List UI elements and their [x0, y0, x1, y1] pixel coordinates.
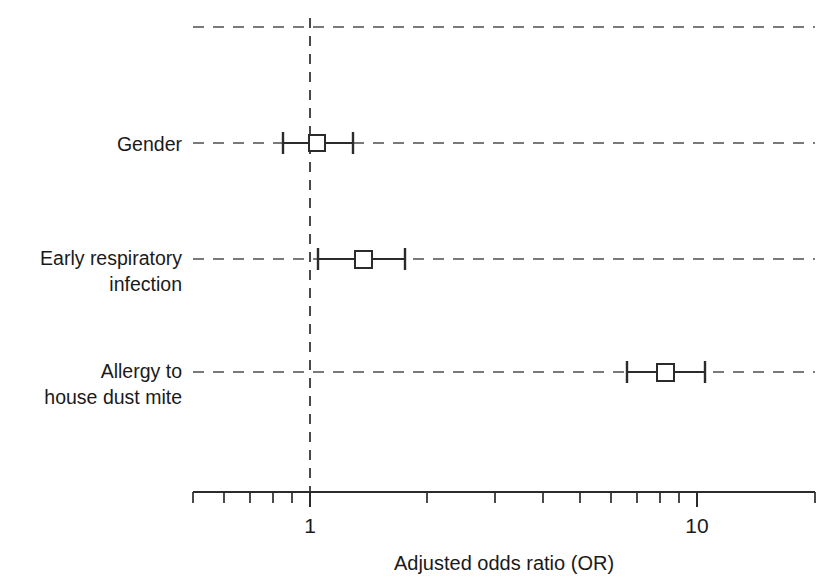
estimate-marker-early-respiratory-infection: [355, 251, 372, 268]
forest-row-allergy-house-dust-mite: Allergy to house dust mite: [44, 360, 705, 408]
estimate-marker-allergy-house-dust-mite: [657, 364, 674, 381]
forest-plot-canvas: Gender Early respiratory infection Aller…: [0, 0, 836, 580]
forest-row-early-respiratory-infection: Early respiratory infection: [40, 247, 405, 295]
x-axis-ticklabel-10: 10: [685, 514, 708, 537]
row-label-allergy-house-dust-mite-line1: Allergy to: [101, 360, 182, 382]
row-gridlines: [193, 143, 815, 372]
x-axis-title: Adjusted odds ratio (OR): [394, 552, 614, 574]
forest-plot-figure: Gender Early respiratory infection Aller…: [0, 0, 836, 580]
x-axis: 1 10 Adjusted odds ratio (OR): [193, 492, 815, 574]
row-label-early-respiratory-infection-line2: infection: [109, 273, 182, 295]
x-axis-ticklabel-1: 1: [304, 514, 316, 537]
row-label-early-respiratory-infection-line1: Early respiratory: [40, 247, 182, 269]
row-label-gender: Gender: [117, 133, 183, 155]
row-label-allergy-house-dust-mite-line2: house dust mite: [44, 386, 182, 408]
estimate-marker-gender: [309, 135, 325, 151]
